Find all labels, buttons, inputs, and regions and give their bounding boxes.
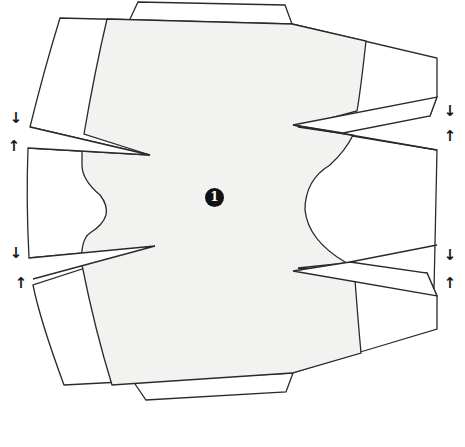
arrow-up-icon: ↑ [443,129,457,144]
arrow-down-icon: ↓ [443,248,457,263]
arrow-up-icon: ↑ [443,276,457,291]
arrow-up-icon: ↑ [14,276,28,291]
arrow-down-icon: ↓ [443,104,457,119]
piece-number-badge: 1 [205,188,224,207]
arrow-down-icon: ↓ [9,111,23,126]
arrow-up-icon: ↑ [7,139,21,154]
pattern-diagram [0,0,465,447]
arrow-down-icon: ↓ [9,246,23,261]
